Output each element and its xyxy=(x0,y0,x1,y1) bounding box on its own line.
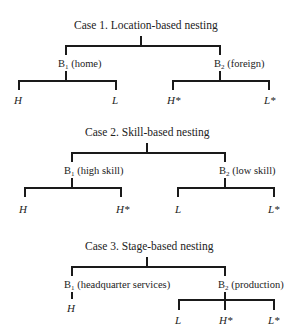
case-2-b2-drop xyxy=(224,152,226,162)
b2-letter: B xyxy=(218,279,225,290)
case-1-leaf-drop xyxy=(18,80,20,90)
b2-text: (foreign) xyxy=(225,58,265,69)
case-3-b2-label: B2 (production) xyxy=(218,279,284,294)
case-3-leaf-drop xyxy=(273,299,275,310)
b1-letter: B xyxy=(58,58,65,69)
case-3-leaf-l-star: L* xyxy=(268,314,280,326)
b2-letter: B xyxy=(219,165,226,176)
case-2-b1-bar xyxy=(24,187,122,189)
case-3-leaf-drop xyxy=(178,299,180,310)
case-2-leaf-drop xyxy=(177,187,179,197)
case-1-leaf-drop xyxy=(268,80,270,90)
case-1-leaf-drop xyxy=(172,80,174,90)
case-2-leaf-drop xyxy=(120,187,122,197)
b1-letter: B xyxy=(64,279,71,290)
case-2-leaf-l: L xyxy=(175,203,181,215)
case-1-top-bar xyxy=(65,45,221,47)
case-3-b2-bar xyxy=(178,299,275,301)
case-2-leaf-h: H xyxy=(19,203,27,215)
b1-text: (home) xyxy=(69,58,102,69)
case-2-b2-label: B2 (low skill) xyxy=(219,165,276,180)
case-3-leaf-l: L xyxy=(175,314,181,326)
case-1-leaf-h: H xyxy=(14,94,22,106)
case-1-b2-drop xyxy=(219,45,221,55)
case-1-b1-bar xyxy=(18,80,117,82)
case-3-b1-stem xyxy=(71,292,73,299)
case-2-leaf-drop xyxy=(273,187,275,197)
case-3-b2-stem xyxy=(224,292,226,310)
case-2-b2-bar xyxy=(177,187,275,189)
case-3-leaf-h: H xyxy=(67,302,75,314)
case-2-b1-drop xyxy=(71,152,73,162)
case-2-top-bar xyxy=(71,152,226,154)
case-3-b1-label: B1 (headquarter services) xyxy=(64,279,170,294)
case-2-title: Case 2. Skill-based nesting xyxy=(85,126,210,138)
b1-text: (headquarter services) xyxy=(75,279,171,290)
case-3-b2-drop xyxy=(224,266,226,276)
case-3-top-bar xyxy=(71,266,226,268)
b2-text: (low skill) xyxy=(230,165,276,176)
b1-letter: B xyxy=(64,165,71,176)
case-3-b1-drop xyxy=(71,266,73,276)
case-2-leaf-drop xyxy=(24,187,26,197)
case-1-leaf-l-star: L* xyxy=(264,94,276,106)
b2-text: (production) xyxy=(229,279,284,290)
b2-letter: B xyxy=(214,58,221,69)
case-2-leaf-l-star: L* xyxy=(268,203,280,215)
case-1-b2-label: B2 (foreign) xyxy=(214,58,264,73)
case-1-b1-drop xyxy=(65,45,67,55)
case-3-leaf-h-star: H* xyxy=(219,314,232,326)
case-2-leaf-h-star: H* xyxy=(116,203,129,215)
case-3-title: Case 3. Stage-based nesting xyxy=(85,240,213,252)
case-1-leaf-h-star: H* xyxy=(167,94,180,106)
case-1-title: Case 1. Location-based nesting xyxy=(74,19,218,31)
case-1-leaf-l: L xyxy=(112,94,118,106)
case-1-b2-bar xyxy=(172,80,270,82)
case-1-leaf-drop xyxy=(115,80,117,90)
b1-text: (high skill) xyxy=(75,165,124,176)
